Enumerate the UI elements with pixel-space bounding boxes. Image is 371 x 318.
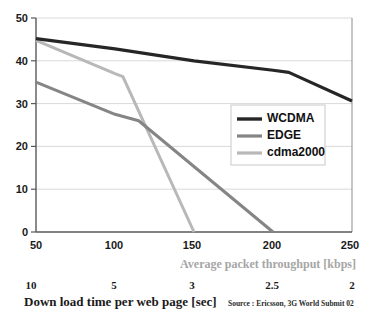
chart-container: 50 40 30 20 10 0 50 100 150 200 250 Aver… [0, 0, 371, 318]
y-tick-label-20: 20 [16, 140, 28, 152]
y-tick-label-40: 40 [16, 55, 28, 67]
source-note: Source : Ericsson, 3G World Submit 02 [228, 299, 354, 308]
x-tick2-label-3: 3 [189, 279, 195, 291]
y-tick-label-0: 0 [22, 226, 28, 238]
x-tick2-label-2.5: 2.5 [265, 279, 279, 291]
legend-label-cdma2000: cdma2000 [267, 145, 325, 159]
x-axis-title-download-time: Down load time per web page [sec] [24, 294, 217, 309]
legend-label-wcdma: WCDMA [267, 111, 315, 125]
legend-label-edge: EDGE [267, 128, 301, 142]
x-tick-label-250: 250 [341, 239, 359, 251]
legend: WCDMA EDGE cdma2000 [231, 105, 325, 165]
x-tick-label-50: 50 [30, 239, 42, 251]
x-axis-title-throughput: Average packet throughput [kbps] [180, 257, 356, 271]
line-chart: 50 40 30 20 10 0 50 100 150 200 250 Aver… [0, 0, 371, 318]
x-tick2-label-2: 2 [349, 279, 355, 291]
x-tick-label-150: 150 [183, 239, 201, 251]
y-tick-label-50: 50 [16, 12, 28, 24]
x-tick-label-200: 200 [263, 239, 281, 251]
y-axis-ticks [31, 18, 36, 232]
y-tick-label-30: 30 [16, 98, 28, 110]
y-tick-label-10: 10 [16, 183, 28, 195]
x-tick-label-100: 100 [105, 239, 123, 251]
x-tick2-label-10: 10 [26, 279, 38, 291]
x-tick2-label-5: 5 [111, 279, 117, 291]
